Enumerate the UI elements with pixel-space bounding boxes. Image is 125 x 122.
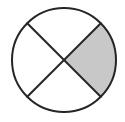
figure-container: Circle divided into four sectors by two … xyxy=(0,0,125,122)
circle-sectors-diagram: Circle divided into four sectors by two … xyxy=(0,0,125,122)
